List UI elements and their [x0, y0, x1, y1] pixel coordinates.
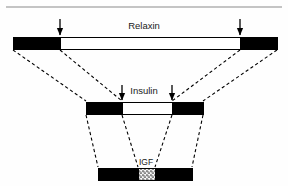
- diagram-canvas: RelaxinInsulinIGF: [0, 0, 288, 186]
- segment-igf-c-domain: [138, 168, 155, 180]
- segment-igf-a-domain: [155, 168, 192, 180]
- connector-insulin-left-inner-to-igf-left-inner: [122, 115, 138, 167]
- segment-insulin-c-peptide: [122, 102, 172, 114]
- segment-relaxin-b-chain: [13, 37, 60, 49]
- connector-insulin-right-inner-to-igf-right-inner: [155, 115, 172, 167]
- segment-insulin-a-chain: [172, 102, 203, 114]
- connector-insulin-left-outer-to-igf-left-outer: [86, 115, 98, 167]
- label-relaxin: Relaxin: [128, 20, 160, 31]
- relaxin-insulin-igf-figure: RelaxinInsulinIGF: [0, 0, 288, 186]
- segment-igf-b-domain: [98, 168, 138, 180]
- label-insulin: Insulin: [130, 85, 157, 96]
- connector-relaxin-right-inner-to-insulin-right-inner: [172, 50, 240, 101]
- segment-relaxin-a-chain: [240, 37, 277, 49]
- bar-igf: [98, 168, 192, 180]
- connector-relaxin-right-outer-to-insulin-right-outer: [203, 50, 277, 101]
- connector-relaxin-left-outer-to-insulin-left-outer: [13, 50, 86, 101]
- connector-insulin-right-outer-to-igf-right-outer: [192, 115, 203, 167]
- bar-insulin: [86, 102, 203, 114]
- connector-relaxin-left-inner-to-insulin-left-inner: [60, 50, 122, 101]
- bar-relaxin: [13, 37, 277, 49]
- segment-relaxin-c-peptide: [60, 37, 240, 49]
- segment-insulin-b-chain: [86, 102, 122, 114]
- label-igf: IGF: [139, 157, 153, 167]
